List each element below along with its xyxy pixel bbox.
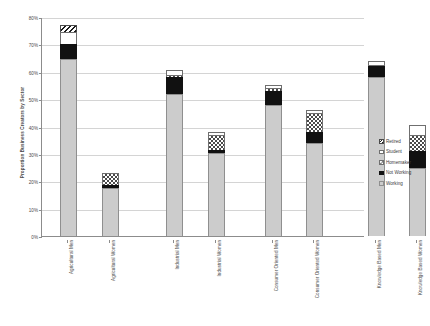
x-axis-label: Knowledge Based Men	[377, 240, 382, 320]
bar-segment-notworking[interactable]	[166, 77, 183, 93]
x-axis-label: Industrial Women	[217, 240, 222, 320]
legend-label: Homemaker	[386, 160, 411, 165]
chart-legend: RetiredStudentHomemakerNot WorkingWorkin…	[379, 136, 429, 189]
bar-segment-working[interactable]	[102, 188, 119, 236]
y-axis-title: Proportion Business Creators by Sector	[20, 53, 25, 213]
bar-segment-homemaker[interactable]	[102, 173, 119, 185]
y-tick-label: 30%	[29, 152, 38, 157]
y-tick-label: 80%	[29, 16, 38, 21]
bar-segment-working[interactable]	[265, 105, 282, 236]
legend-label: Retired	[386, 139, 401, 144]
y-tick-label: 70%	[29, 43, 38, 48]
bar-segment-student[interactable]	[60, 32, 77, 44]
bar-segment-homemaker[interactable]	[306, 113, 323, 132]
legend-label: Student	[386, 149, 402, 154]
x-axis-label: Agricultural Men	[69, 240, 74, 320]
chart-container: Proportion Business Creators by Sector 0…	[0, 0, 430, 326]
x-axis-label: Consumer Oriented Women	[315, 240, 320, 320]
bar-segment-working[interactable]	[306, 143, 323, 236]
bar-stack[interactable]	[60, 25, 77, 236]
x-tick-mark	[173, 240, 174, 243]
legend-swatch-retired-icon	[379, 139, 384, 144]
plot-area: 0%10%20%30%40%50%60%70%80%	[41, 18, 364, 237]
x-axis-label: Knowledge Based Women	[418, 240, 423, 320]
bar-segment-homemaker[interactable]	[208, 135, 225, 150]
legend-label: Not Working	[386, 170, 411, 175]
x-tick-mark	[375, 240, 376, 243]
x-tick-mark	[313, 240, 314, 243]
legend-item[interactable]: Not Working	[379, 168, 429, 179]
y-tick-label: 0%	[31, 235, 38, 240]
x-axis-label: Agricultural Women	[111, 240, 116, 320]
x-tick-mark	[67, 240, 68, 243]
legend-swatch-student-icon	[379, 150, 384, 155]
bar-segment-working[interactable]	[208, 153, 225, 236]
y-tick-label: 60%	[29, 70, 38, 75]
bar-segment-student[interactable]	[409, 125, 426, 135]
x-tick-mark	[272, 240, 273, 243]
bar-segment-notworking[interactable]	[60, 44, 77, 59]
x-tick-mark	[416, 240, 417, 243]
y-tick-label: 40%	[29, 125, 38, 130]
y-tick-label: 10%	[29, 207, 38, 212]
x-axis-label: Industrial Men	[175, 240, 180, 320]
x-axis-labels: Agricultural MenAgricultural WomenIndust…	[41, 240, 364, 326]
bar-series-group	[42, 18, 364, 236]
y-tick-mark	[39, 237, 42, 238]
y-tick-label: 20%	[29, 180, 38, 185]
bar-stack[interactable]	[306, 110, 323, 236]
bar-segment-retired[interactable]	[60, 25, 77, 32]
bar-stack[interactable]	[102, 173, 119, 236]
bar-stack[interactable]	[166, 70, 183, 236]
legend-item[interactable]: Retired	[379, 136, 429, 147]
x-axis-label: Consumer Oriented Men	[274, 240, 279, 320]
bar-segment-notworking[interactable]	[265, 91, 282, 105]
legend-item[interactable]: Homemaker	[379, 157, 429, 168]
x-tick-mark	[215, 240, 216, 243]
legend-item[interactable]: Student	[379, 147, 429, 158]
bar-stack[interactable]	[265, 85, 282, 236]
bar-stack[interactable]	[208, 132, 225, 236]
legend-item[interactable]: Working	[379, 178, 429, 189]
bar-segment-working[interactable]	[166, 94, 183, 236]
bar-segment-notworking[interactable]	[368, 66, 385, 77]
bar-segment-notworking[interactable]	[306, 132, 323, 143]
x-tick-mark	[109, 240, 110, 243]
bar-segment-working[interactable]	[60, 59, 77, 236]
legend-label: Working	[386, 181, 403, 186]
legend-swatch-notworking-icon	[379, 171, 384, 176]
legend-swatch-working-icon	[379, 181, 384, 186]
y-tick-label: 50%	[29, 98, 38, 103]
legend-swatch-homemaker-icon	[379, 160, 384, 165]
